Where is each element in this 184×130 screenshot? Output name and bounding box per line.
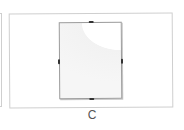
clip-frame-image xyxy=(59,22,123,99)
clip-top-icon xyxy=(89,21,94,23)
option-card-previous[interactable] xyxy=(0,13,2,107)
clip-right-icon xyxy=(121,59,123,64)
option-label-text: C xyxy=(88,108,97,122)
option-label: C xyxy=(0,108,184,122)
clip-bottom-icon xyxy=(89,98,94,100)
option-card-c[interactable] xyxy=(9,12,174,108)
clip-left-icon xyxy=(58,59,60,64)
